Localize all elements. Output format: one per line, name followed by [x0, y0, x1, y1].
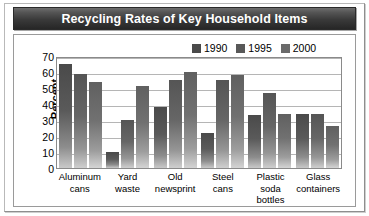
bar — [311, 114, 324, 168]
legend-item: 1990 — [192, 42, 227, 54]
y-tick-label: 60 — [42, 68, 54, 79]
x-tick-label: Yardwaste — [104, 171, 152, 205]
y-tick-label: 50 — [42, 84, 54, 95]
x-tick-label-line: Glass — [294, 171, 342, 183]
chart-card: Percent 706050403020100 199019952000 Alu… — [13, 34, 356, 207]
bar-group — [152, 58, 199, 168]
bar — [216, 80, 229, 168]
bar — [231, 75, 244, 168]
bar-group — [104, 58, 151, 168]
legend-label: 2000 — [293, 42, 316, 54]
bar — [296, 114, 309, 168]
x-tick-label-line: Plastic soda — [247, 171, 295, 194]
y-tick-label: 30 — [42, 116, 54, 127]
bar — [248, 115, 261, 168]
x-tick-label: Aluminumcans — [56, 171, 104, 205]
x-tick-label-line: waste — [104, 183, 152, 195]
bar — [74, 74, 87, 168]
x-tick-label-line: Old — [151, 171, 199, 183]
x-axis-labels: AluminumcansYardwasteOldnewsprintSteelca… — [56, 171, 342, 205]
legend-item: 1995 — [236, 42, 271, 54]
legend-label: 1990 — [204, 42, 227, 54]
page-title: Recycling Rates of Key Household Items — [61, 12, 307, 26]
legend-swatch — [236, 44, 245, 53]
legend-label: 1995 — [248, 42, 271, 54]
chart-title-bar: Recycling Rates of Key Household Items — [13, 7, 356, 30]
bar — [326, 126, 339, 168]
bar — [201, 133, 214, 168]
legend-swatch — [281, 44, 290, 53]
bar — [89, 82, 102, 168]
bar — [59, 64, 72, 168]
x-tick-label: Oldnewsprint — [151, 171, 199, 205]
y-tick-label: 70 — [42, 52, 54, 63]
bar — [184, 72, 197, 168]
x-tick-label-line: newsprint — [151, 183, 199, 195]
y-tick-label: 40 — [42, 100, 54, 111]
x-tick-label: Glasscontainers — [294, 171, 342, 205]
legend-item: 2000 — [281, 42, 316, 54]
bar — [263, 93, 276, 168]
bar-group — [246, 58, 293, 168]
bar — [169, 80, 182, 168]
chart-legend: 199019952000 — [190, 41, 318, 55]
x-tick-label-line: cans — [56, 183, 104, 195]
plot-area — [56, 57, 342, 169]
bar — [154, 107, 167, 168]
x-tick-label-line: Steel — [199, 171, 247, 183]
x-tick-label: Steelcans — [199, 171, 247, 205]
x-tick-label: Plastic sodabottles — [247, 171, 295, 205]
bar-group — [294, 58, 341, 168]
x-tick-label-line: bottles — [247, 194, 295, 206]
y-axis-ticks: 706050403020100 — [26, 57, 54, 169]
bar — [121, 120, 134, 168]
y-tick-label: 0 — [48, 164, 54, 175]
x-tick-label-line: cans — [199, 183, 247, 195]
bar — [106, 152, 119, 168]
bar-groups — [57, 58, 341, 168]
bar — [136, 86, 149, 168]
chart-figure: Recycling Rates of Key Household Items P… — [0, 0, 369, 216]
x-tick-label-line: containers — [294, 183, 342, 195]
y-tick-label: 20 — [42, 132, 54, 143]
x-tick-label-line: Aluminum — [56, 171, 104, 183]
x-tick-label-line: Yard — [104, 171, 152, 183]
plot-area-wrapper — [56, 57, 342, 169]
y-tick-label: 10 — [42, 148, 54, 159]
bar — [278, 114, 291, 168]
bar-group — [57, 58, 104, 168]
bar-group — [199, 58, 246, 168]
legend-swatch — [192, 44, 201, 53]
